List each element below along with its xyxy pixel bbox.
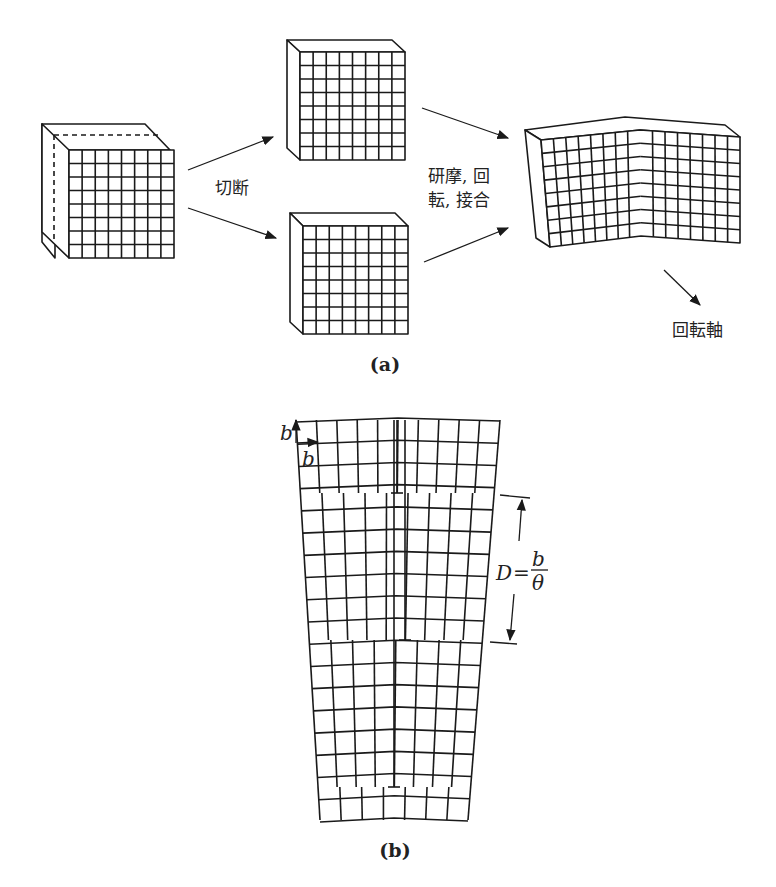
spacing-top-bar xyxy=(500,495,530,498)
panel-b-label: (b) xyxy=(379,839,410,861)
left-face xyxy=(290,213,303,334)
arrow-join-bottom xyxy=(424,228,508,262)
original-crystal-cube xyxy=(42,124,174,258)
spacing-arrow-up xyxy=(519,500,522,541)
spacing-label-D: D xyxy=(495,561,512,585)
process-label-line2: 転, 接合 xyxy=(428,190,490,210)
split-crystal-top xyxy=(287,40,405,160)
burgers-horizontal-label: b xyxy=(302,447,315,471)
panel-a-label: (a) xyxy=(370,353,400,375)
left-face xyxy=(287,40,300,160)
process-label-line1: 研摩, 回 xyxy=(428,166,490,186)
split-crystal-bottom xyxy=(290,213,408,334)
low-angle-boundary-lattice xyxy=(296,418,500,822)
arrow-join-top xyxy=(422,108,508,138)
spacing-label-den: θ xyxy=(532,571,544,595)
top-face xyxy=(287,40,405,52)
spacing-bottom-bar xyxy=(490,642,517,644)
top-face xyxy=(290,213,408,226)
arrow-cut-top xyxy=(188,137,273,170)
arrow-cut-bottom xyxy=(188,208,276,238)
figure-canvas: 切断 研摩, 回 転, 接合 回転軸 (a) b b D = b θ (b) xyxy=(0,0,776,887)
cut-label: 切断 xyxy=(215,178,249,198)
spacing-label-eq: = xyxy=(513,561,530,585)
rotation-axis-label: 回転軸 xyxy=(672,320,723,340)
spacing-label-num: b xyxy=(532,547,545,571)
joined-tilt-boundary-crystal xyxy=(525,117,740,247)
spacing-marker: D = b θ xyxy=(490,495,548,644)
rotation-axis-arrow xyxy=(664,270,700,305)
burgers-vertical-label: b xyxy=(280,421,293,445)
spacing-arrow-down xyxy=(510,594,514,640)
